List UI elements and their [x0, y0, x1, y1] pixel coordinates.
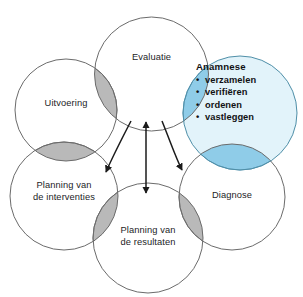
list-item-label: verifiëren	[205, 87, 247, 97]
bullet-icon: •	[196, 99, 199, 111]
list-item: • verifiëren	[196, 86, 288, 98]
arrow-curve-right	[162, 121, 182, 170]
list-item: • verzamelen	[196, 74, 288, 86]
bullet-icon: •	[196, 86, 199, 98]
list-item-label: vastleggen	[205, 112, 254, 122]
node-content-anamnese: Anamnese • verzamelen • verifiëren • ord…	[196, 61, 288, 124]
bullet-icon: •	[196, 111, 199, 123]
list-item-label: verzamelen	[205, 75, 256, 85]
list-item: • vastleggen	[196, 111, 288, 123]
anamnese-heading: Anamnese	[196, 61, 288, 73]
cycle-graphic	[0, 0, 303, 297]
anamnese-bullet-list: • verzamelen • verifiëren • ordenen • va…	[196, 74, 288, 124]
list-item: • ordenen	[196, 99, 288, 111]
list-item-label: ordenen	[205, 100, 242, 110]
bullet-icon: •	[196, 74, 199, 86]
nursing-process-cycle-diagram: Evaluatie Uitvoering Planning van de int…	[0, 0, 303, 297]
